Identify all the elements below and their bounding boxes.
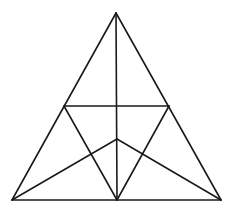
segment-DM: [64, 106, 117, 200]
segment-EM: [117, 106, 169, 200]
segment-BP: [12, 139, 117, 200]
segment-CP: [117, 139, 221, 200]
diagram-canvas: [0, 0, 232, 212]
triangle-figure: [0, 0, 232, 212]
